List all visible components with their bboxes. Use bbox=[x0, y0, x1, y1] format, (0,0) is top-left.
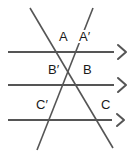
diagram-canvas bbox=[0, 0, 134, 155]
arrowhead-bottom-icon bbox=[117, 114, 124, 126]
arrowhead-middle-icon bbox=[118, 78, 126, 92]
point-label-c: C bbox=[100, 98, 111, 111]
point-label-b: B bbox=[82, 63, 93, 76]
geometry-diagram: A A′ B′ B C′ C bbox=[0, 0, 134, 155]
point-label-a-prime: A′ bbox=[78, 30, 91, 43]
point-label-a: A bbox=[58, 30, 69, 43]
transversal-backslash-line bbox=[30, 8, 113, 148]
arrowhead-top-icon bbox=[118, 45, 126, 59]
point-label-b-prime: B′ bbox=[47, 63, 60, 76]
point-label-c-prime: C′ bbox=[35, 98, 49, 111]
